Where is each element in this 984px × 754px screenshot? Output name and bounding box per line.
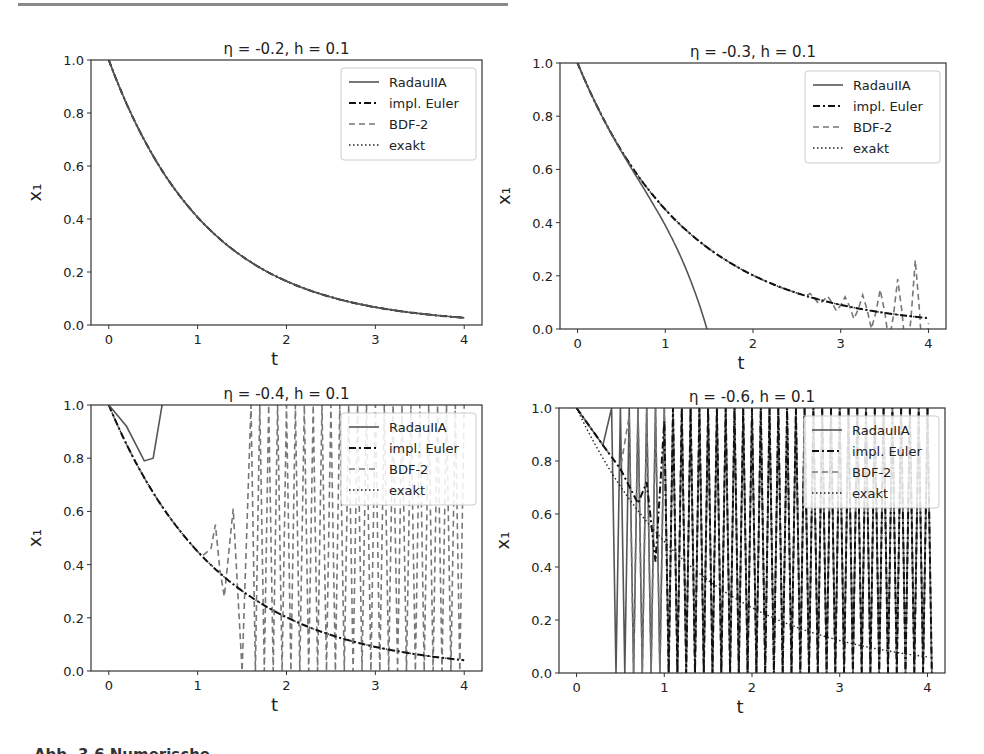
y-tick-label: 0.6 [531,507,552,522]
x-tick-label: 2 [748,680,756,695]
y-tick-label: 0.8 [531,454,552,469]
x-tick-label: 4 [923,680,931,695]
legend-label: RadauIIA [852,423,910,438]
x-tick-label: 1 [660,680,668,695]
y-tick-label: 0.4 [531,560,552,575]
legend: RadauIIAimpl. EulerBDF-2exakt [804,416,939,508]
y-tick-label: 1.0 [531,401,552,416]
legend-label: exakt [852,486,888,501]
y-tick-label: 0.2 [531,613,552,628]
subplot-title: η = -0.6, h = 0.1 [689,388,815,406]
x-tick-label: 3 [836,680,844,695]
y-tick-label: 0.0 [531,666,552,681]
legend-label: BDF-2 [852,465,891,480]
y-axis-label: x₁ [492,532,513,550]
x-tick-label: 0 [572,680,580,695]
figure-caption-fragment: Abb. 3.6 Numerische [34,746,210,754]
x-axis-label: t [736,696,743,717]
legend-label: impl. Euler [852,444,922,459]
